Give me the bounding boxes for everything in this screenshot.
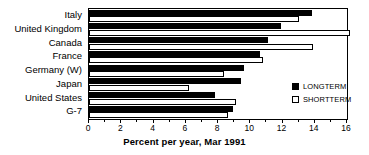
- legend-item: LONGTERM: [292, 81, 368, 92]
- category-axis: ItalyUnited KingdomCanadaFranceGermany (…: [0, 8, 86, 118]
- bar-group: [89, 23, 347, 37]
- bar-shortterm: [89, 44, 313, 50]
- axis-tick-minor: [330, 119, 331, 122]
- category-label: United States: [25, 91, 82, 105]
- axis-tick-minor: [136, 119, 137, 122]
- axis-tick-label: 16: [341, 123, 350, 133]
- bar-group: [89, 37, 347, 51]
- bar-shortterm: [89, 99, 236, 105]
- category-label: Italy: [65, 8, 82, 22]
- bar-longterm: [89, 23, 281, 29]
- bar-longterm: [89, 10, 312, 16]
- axis-tick-label: 14: [309, 123, 318, 133]
- axis-tick-minor: [104, 119, 105, 122]
- bar-group: [89, 105, 347, 119]
- bar-group: [89, 9, 347, 23]
- axis-tick-label: 0: [86, 123, 91, 133]
- bar-longterm: [89, 106, 233, 112]
- bar-shortterm: [89, 57, 263, 63]
- x-axis-title: Percent per year, Mar 1991: [0, 136, 369, 147]
- bar-chart: ItalyUnited KingdomCanadaFranceGermany (…: [0, 0, 369, 155]
- legend-swatch-filled: [292, 83, 299, 90]
- chart-legend: LONGTERMSHORTTERM: [292, 81, 368, 107]
- category-label: Japan: [56, 77, 82, 91]
- axis-tick-label: 12: [277, 123, 286, 133]
- legend-swatch-hollow: [292, 96, 299, 103]
- legend-label: LONGTERM: [303, 82, 346, 91]
- axis-tick-minor: [201, 119, 202, 122]
- bar-group: [89, 64, 347, 78]
- axis-tick-minor: [265, 119, 266, 122]
- axis-tick-minor: [233, 119, 234, 122]
- category-label: G-7: [66, 104, 82, 118]
- bar-shortterm: [89, 112, 228, 118]
- category-label: Canada: [49, 36, 82, 50]
- category-label: France: [52, 49, 82, 63]
- bar-group: [89, 50, 347, 64]
- bar-longterm: [89, 78, 241, 84]
- bar-shortterm: [89, 16, 299, 22]
- axis-tick-label: 8: [215, 123, 220, 133]
- legend-label: SHORTTERM: [303, 95, 351, 104]
- axis-tick-label: 10: [245, 123, 254, 133]
- axis-tick-minor: [298, 119, 299, 122]
- category-label: Germany (W): [25, 63, 82, 77]
- axis-tick-label: 4: [150, 123, 155, 133]
- bar-shortterm: [89, 71, 224, 77]
- bar-shortterm: [89, 30, 350, 36]
- bar-longterm: [89, 51, 260, 57]
- bar-shortterm: [89, 85, 189, 91]
- axis-tick-label: 6: [182, 123, 187, 133]
- bar-longterm: [89, 65, 244, 71]
- bar-longterm: [89, 37, 268, 43]
- category-label: United Kingdom: [14, 22, 82, 36]
- legend-item: SHORTTERM: [292, 94, 368, 105]
- bar-longterm: [89, 92, 215, 98]
- axis-tick-minor: [169, 119, 170, 122]
- axis-tick-label: 2: [118, 123, 123, 133]
